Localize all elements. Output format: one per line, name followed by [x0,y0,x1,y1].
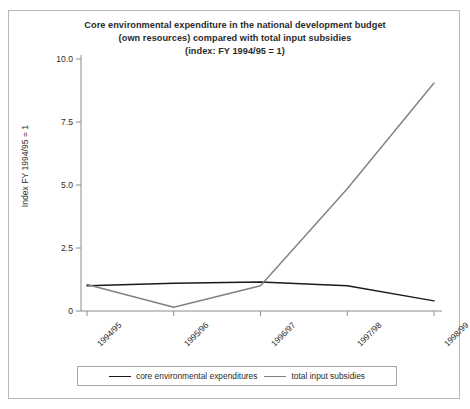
plot-svg [9,11,461,400]
legend-item-0[interactable]: core environmental expenditures [109,371,258,381]
legend-label-0: core environmental expenditures [136,371,258,381]
y-tick-label-1: 2.5 [35,243,73,253]
legend-swatch-0 [109,376,131,377]
y-axis-label: Index FY 1994/95 = 1 [20,106,30,226]
series-line-1 [87,83,434,307]
chart-figure: Core environmental expenditure in the na… [8,10,460,399]
y-tick-label-0: 0 [35,306,73,316]
chart-legend: core environmental expenditurestotal inp… [77,366,397,386]
legend-label-1: total input subsidies [291,371,365,381]
legend-swatch-1 [264,376,286,377]
y-tick-label-2: 5.0 [35,180,73,190]
y-tick-label-4: 10.0 [35,54,73,64]
y-tick-label-3: 7.5 [35,117,73,127]
legend-item-1[interactable]: total input subsidies [264,371,365,381]
plot-area [9,11,461,400]
